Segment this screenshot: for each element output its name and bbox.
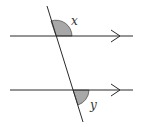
angle-x-label: x [71,14,78,28]
angle-y-label: y [89,98,97,112]
parallel-lines-diagram: x y [0,0,144,127]
